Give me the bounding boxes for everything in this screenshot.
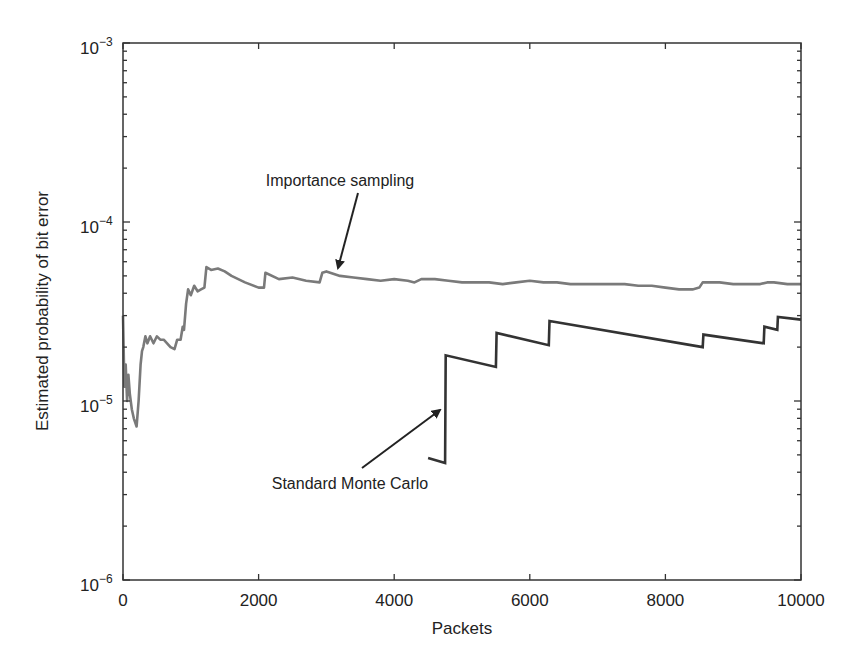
x-tick-label: 8000 (646, 591, 684, 610)
annotation-label: Importance sampling (266, 172, 415, 189)
chart-figure: 0 2000 4000 6000 8000 10000 10−3 10−4 10… (0, 0, 868, 671)
x-tick-label: 0 (118, 591, 127, 610)
x-tick-label: 4000 (375, 591, 413, 610)
x-tick-label: 6000 (511, 591, 549, 610)
x-tick-label: 2000 (240, 591, 278, 610)
y-axis-label: Estimated probability of bit error (33, 191, 52, 431)
x-axis-label: Packets (432, 619, 492, 638)
x-tick-label: 10000 (777, 591, 824, 610)
figure-background (0, 0, 868, 671)
annotation-label: Standard Monte Carlo (272, 475, 429, 492)
